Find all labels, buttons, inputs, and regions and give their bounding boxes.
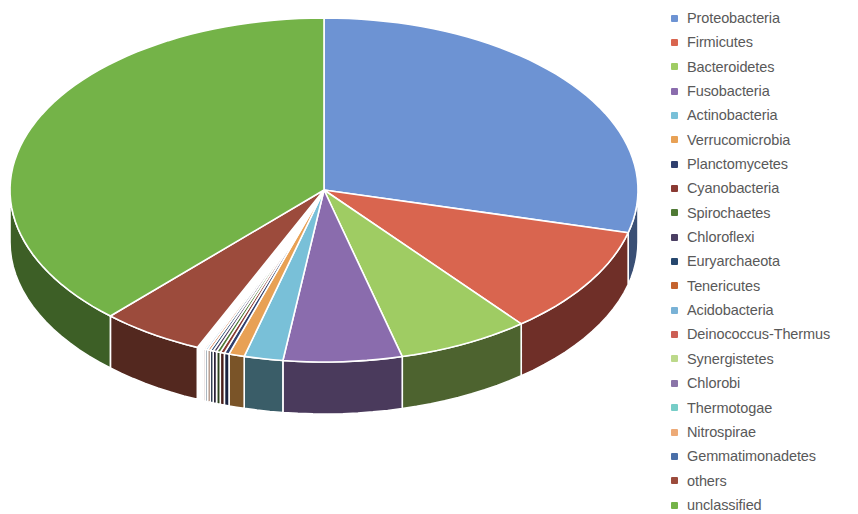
legend-item[interactable]: Tenericutes — [666, 274, 858, 298]
pie-slice-side — [283, 357, 402, 414]
legend-item-label: unclassified — [687, 493, 762, 514]
legend-item[interactable]: Firmicutes — [666, 30, 858, 54]
legend-item[interactable]: Cyanobacteria — [666, 176, 858, 200]
legend-item[interactable]: Deinococcus-Thermus — [666, 322, 858, 346]
legend-item-label: Synergistetes — [687, 347, 774, 371]
legend-item[interactable]: Chlorobi — [666, 371, 858, 395]
legend-item[interactable]: Proteobacteria — [666, 6, 858, 30]
legend-item[interactable]: Chloroflexi — [666, 225, 858, 249]
legend-item[interactable]: unclassified — [666, 493, 858, 514]
legend-color-swatch-icon — [671, 112, 678, 119]
legend-color-swatch-icon — [671, 15, 678, 22]
legend-color-swatch-icon — [671, 502, 678, 509]
legend-color-swatch-icon — [671, 307, 678, 314]
legend-color-swatch-icon — [671, 209, 678, 216]
legend-color-swatch-icon — [671, 258, 678, 265]
pie-slice-side — [229, 354, 244, 408]
pie-chart-plot — [0, 0, 660, 489]
legend-color-swatch-icon — [671, 380, 678, 387]
legend-item-label: Fusobacteria — [687, 79, 770, 103]
legend-item-label: Spirochaetes — [687, 201, 770, 225]
legend-color-swatch-icon — [671, 477, 678, 484]
legend-item-label: Tenericutes — [687, 274, 760, 298]
legend-color-swatch-icon — [671, 88, 678, 95]
pie-chart-svg — [0, 0, 660, 489]
legend-color-swatch-icon — [671, 185, 678, 192]
legend-item[interactable]: Actinobacteria — [666, 103, 858, 127]
legend-item-label: Gemmatimonadetes — [687, 444, 816, 468]
legend-color-swatch-icon — [671, 63, 678, 70]
legend-item-label: Deinococcus-Thermus — [687, 322, 830, 346]
legend-item[interactable]: Nitrospirae — [666, 420, 858, 444]
legend-color-swatch-icon — [671, 429, 678, 436]
legend-item-label: Actinobacteria — [687, 103, 778, 127]
legend-item[interactable]: Gemmatimonadetes — [666, 444, 858, 468]
legend-item-label: Chloroflexi — [687, 225, 754, 249]
legend-color-swatch-icon — [671, 282, 678, 289]
legend-item[interactable]: Bacteroidetes — [666, 55, 858, 79]
legend-item-label: Verrucomicrobia — [687, 128, 790, 152]
legend-item-label: others — [687, 469, 727, 493]
legend-item-label: Firmicutes — [687, 30, 753, 54]
legend-item[interactable]: Synergistetes — [666, 347, 858, 371]
legend-item-label: Chlorobi — [687, 371, 740, 395]
legend-item-label: Acidobacteria — [687, 298, 774, 322]
legend-item[interactable]: Spirochaetes — [666, 201, 858, 225]
legend-item-label: Thermotogae — [687, 396, 772, 420]
legend-item[interactable]: others — [666, 469, 858, 493]
legend-item[interactable]: Euryarchaeota — [666, 249, 858, 273]
legend-color-swatch-icon — [671, 331, 678, 338]
legend-item-label: Proteobacteria — [687, 6, 780, 30]
legend-item-label: Planctomycetes — [687, 152, 788, 176]
legend-item-label: Bacteroidetes — [687, 55, 774, 79]
legend-color-swatch-icon — [671, 234, 678, 241]
legend-color-swatch-icon — [671, 136, 678, 143]
legend-item-label: Cyanobacteria — [687, 176, 779, 200]
legend-color-swatch-icon — [671, 161, 678, 168]
legend-color-swatch-icon — [671, 404, 678, 411]
legend-item-label: Nitrospirae — [687, 420, 756, 444]
legend-item-label: Euryarchaeota — [687, 249, 780, 273]
pie-top-faces — [10, 18, 638, 362]
legend-color-swatch-icon — [671, 39, 678, 46]
legend-color-swatch-icon — [671, 355, 678, 362]
legend-color-swatch-icon — [671, 453, 678, 460]
chart-legend: ProteobacteriaFirmicutesBacteroidetesFus… — [666, 0, 858, 489]
legend-item[interactable]: Acidobacteria — [666, 298, 858, 322]
legend-item[interactable]: Fusobacteria — [666, 79, 858, 103]
legend-item[interactable]: Thermotogae — [666, 396, 858, 420]
pie-slice-side — [244, 356, 283, 412]
legend-item[interactable]: Verrucomicrobia — [666, 128, 858, 152]
legend-item[interactable]: Planctomycetes — [666, 152, 858, 176]
